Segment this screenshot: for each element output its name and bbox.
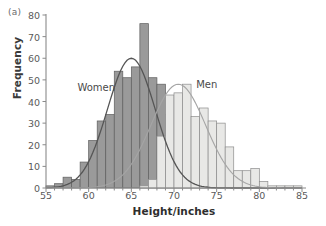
y-tick-60: 60 bbox=[20, 53, 40, 64]
y-tick-70: 70 bbox=[20, 31, 40, 42]
x-tick-55: 55 bbox=[34, 190, 58, 201]
x-tick-70: 70 bbox=[162, 190, 186, 201]
x-tick-60: 60 bbox=[77, 190, 101, 201]
y-tick-10: 10 bbox=[20, 161, 40, 172]
x-tick-65: 65 bbox=[119, 190, 143, 201]
chart-figure: (a) Frequency Height/inches 010203040506… bbox=[0, 0, 326, 226]
series-label-men: Men bbox=[196, 79, 217, 90]
y-tick-80: 80 bbox=[20, 10, 40, 21]
x-tick-85: 85 bbox=[290, 190, 314, 201]
y-tick-40: 40 bbox=[20, 96, 40, 107]
x-tick-75: 75 bbox=[205, 190, 229, 201]
x-tick-80: 80 bbox=[247, 190, 271, 201]
y-tick-30: 30 bbox=[20, 118, 40, 129]
y-tick-20: 20 bbox=[20, 139, 40, 150]
series-label-women: Women bbox=[77, 82, 115, 93]
x-axis-title: Height/inches bbox=[46, 205, 302, 217]
y-tick-50: 50 bbox=[20, 74, 40, 85]
